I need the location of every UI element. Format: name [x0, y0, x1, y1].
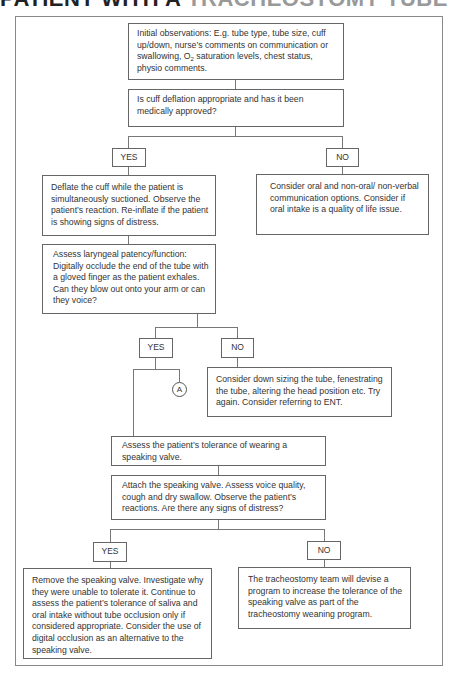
yes-label-2: YES — [139, 338, 173, 358]
connector — [110, 529, 324, 530]
yes-label-1: YES — [112, 148, 146, 167]
connector — [155, 327, 156, 338]
connector — [237, 327, 238, 338]
connector — [237, 357, 238, 367]
connector — [155, 327, 237, 328]
yes-label-3: YES — [93, 542, 127, 562]
no-label-3: NO — [307, 541, 341, 560]
connector — [110, 529, 111, 542]
connector — [324, 529, 325, 541]
consider-downsizing-box: Consider down sizing the tube, fenestrat… — [207, 367, 392, 417]
connector — [235, 126, 236, 136]
title-light: TRACHEOSTOMY TUBE — [187, 0, 448, 11]
connector — [128, 166, 129, 175]
connector — [324, 559, 325, 567]
cuff-deflation-question-box: Is cuff deflation appropriate and has it… — [128, 89, 344, 127]
attach-valve-box: Attach the speaking valve. Assess voice … — [111, 475, 326, 520]
connector — [235, 79, 236, 89]
assess-laryngeal-box: Assess laryngeal patency/function: Digit… — [42, 244, 216, 314]
connector-a-circle: A — [172, 382, 187, 397]
title-dark: PATIENT WITH A — [0, 0, 187, 11]
connector — [110, 561, 111, 568]
no-label-2: NO — [221, 338, 254, 358]
remove-valve-box: Remove the speaking valve. Investigate w… — [23, 568, 212, 659]
connector — [128, 235, 129, 244]
no-label-1: NO — [326, 148, 359, 167]
connector — [128, 136, 129, 148]
connector — [133, 369, 180, 370]
connector — [133, 369, 134, 436]
initial-observations-box: Initial observations: E.g. tube type, tu… — [128, 23, 344, 80]
connector — [342, 136, 343, 148]
connector — [218, 465, 219, 475]
connector — [342, 166, 343, 174]
connector — [179, 369, 180, 382]
connector — [218, 519, 219, 529]
team-program-box: The tracheostomy team will devise a prog… — [238, 567, 411, 629]
consider-oral-box: Consider oral and non-oral/ non-verbal c… — [256, 174, 429, 235]
page-title: PATIENT WITH A TRACHEOSTOMY TUBE — [0, 0, 448, 12]
assess-tolerance-box: Assess the patient’s tolerance of wearin… — [111, 436, 326, 466]
deflate-cuff-box: Deflate the cuff while the patient is si… — [42, 175, 216, 236]
connector — [197, 313, 198, 327]
connector — [128, 136, 342, 137]
connector — [155, 357, 156, 369]
